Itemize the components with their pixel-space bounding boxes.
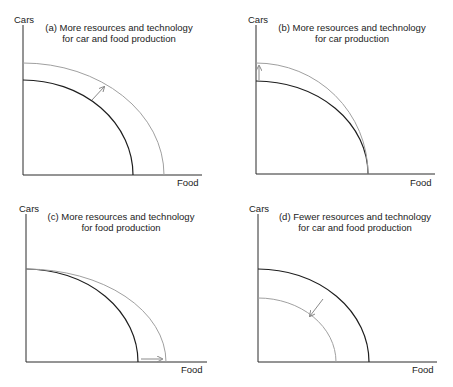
panel-d: Cars (d) Fewer resources and technology … bbox=[249, 203, 437, 375]
panel-title-line1: (a) More resources and technology bbox=[45, 22, 193, 33]
y-axis-label: Cars bbox=[14, 14, 34, 25]
panel-title-line2: for car production bbox=[315, 33, 389, 44]
panel-title-line2: for food production bbox=[81, 222, 160, 233]
x-axis-label: Food bbox=[177, 177, 199, 188]
new-ppf-curve bbox=[23, 63, 164, 175]
panel-title-line1: (c) More resources and technology bbox=[48, 211, 195, 222]
new-ppf-curve bbox=[256, 63, 368, 174]
x-axis-label: Food bbox=[412, 364, 434, 375]
y-axis-label: Cars bbox=[19, 203, 39, 214]
original-ppf-curve bbox=[23, 80, 133, 175]
original-ppf-curve bbox=[258, 269, 369, 362]
shift-arrow-icon bbox=[310, 299, 323, 316]
y-axis-label: Cars bbox=[248, 14, 268, 25]
panel-title-line2: for car and food production bbox=[62, 33, 176, 44]
new-ppf-curve bbox=[258, 298, 336, 362]
panel-title-line1: (d) Fewer resources and technology bbox=[279, 211, 431, 222]
x-axis-label: Food bbox=[181, 364, 203, 375]
shift-arrow-icon bbox=[92, 87, 104, 100]
panel-a: Cars (a) More resources and technology f… bbox=[14, 14, 202, 188]
ppf-diagram-grid: Cars (a) More resources and technology f… bbox=[0, 0, 453, 387]
panel-b: Cars (b) More resources and technology f… bbox=[248, 14, 435, 188]
x-axis-label: Food bbox=[410, 177, 432, 188]
new-ppf-curve bbox=[26, 269, 166, 362]
panel-title-line1: (b) More resources and technology bbox=[278, 22, 426, 33]
panel-c: Cars (c) More resources and technology f… bbox=[19, 203, 207, 375]
original-ppf-curve bbox=[256, 81, 368, 174]
y-axis-label: Cars bbox=[249, 203, 269, 214]
panel-title-line2: for car and food production bbox=[298, 222, 412, 233]
original-ppf-curve bbox=[26, 269, 138, 362]
